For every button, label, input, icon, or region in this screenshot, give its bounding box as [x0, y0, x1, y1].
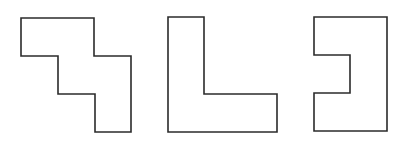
notched-rectangle-shape [314, 17, 387, 131]
l-shape [168, 17, 277, 132]
staircase-shape [21, 18, 131, 132]
shapes-diagram [0, 0, 398, 148]
